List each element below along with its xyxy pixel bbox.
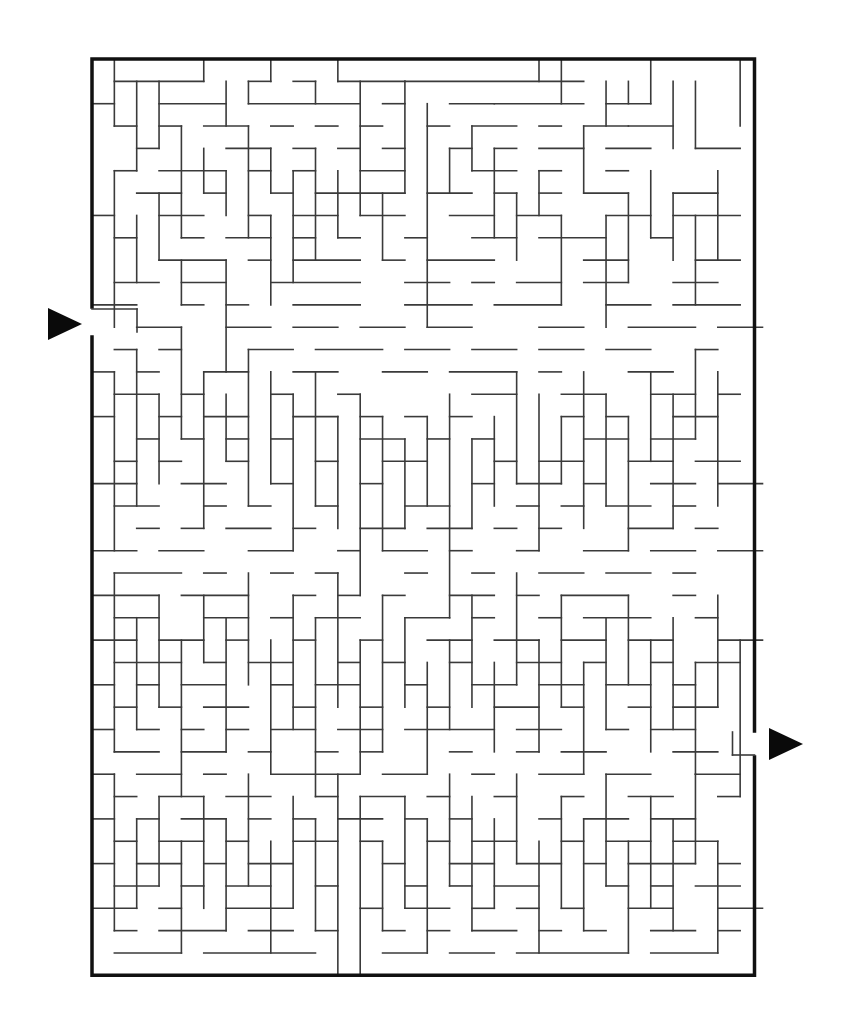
maze-canvas[interactable] [0, 0, 850, 1032]
maze-outer-wall [92, 59, 755, 975]
maze-border [92, 59, 755, 975]
exit-arrow-icon [769, 728, 803, 760]
entrance-arrow-icon [48, 308, 82, 340]
maze-walls [92, 59, 763, 975]
